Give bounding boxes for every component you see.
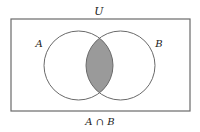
- caption: A ∩ B: [84, 116, 114, 127]
- universe-label: U: [94, 5, 104, 18]
- set-b-label: B: [154, 38, 162, 49]
- venn-diagram: U A B A ∩ B: [0, 0, 200, 132]
- set-a-label: A: [34, 38, 42, 49]
